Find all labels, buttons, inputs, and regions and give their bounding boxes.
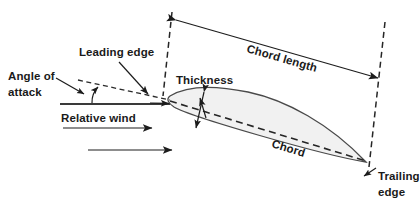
leading-edge-label: Leading edge xyxy=(79,46,154,58)
chord-extension-line xyxy=(78,80,170,100)
chord-length-arrow xyxy=(176,20,378,78)
airfoil-diagram: Angle of attack Leading edge Thickness C… xyxy=(0,0,420,212)
trailing-edge-label-line1: Trailing xyxy=(378,170,420,182)
airfoil-diagram-canvas: Angle of attack Leading edge Thickness C… xyxy=(0,0,420,212)
thickness-label: Thickness xyxy=(176,74,233,86)
angle-of-attack-label-line1: Angle of xyxy=(8,70,55,82)
trailing-edge-leader-arrow xyxy=(364,168,376,176)
angle-of-attack-label-line2: attack xyxy=(8,86,42,98)
relative-wind-label: Relative wind xyxy=(61,112,136,124)
angle-of-attack-arc xyxy=(92,87,98,103)
leading-edge-boundary xyxy=(163,12,172,96)
trailing-edge-boundary xyxy=(369,22,385,167)
airfoil-shape xyxy=(168,87,366,162)
trailing-edge-label-line2: edge xyxy=(378,186,405,198)
